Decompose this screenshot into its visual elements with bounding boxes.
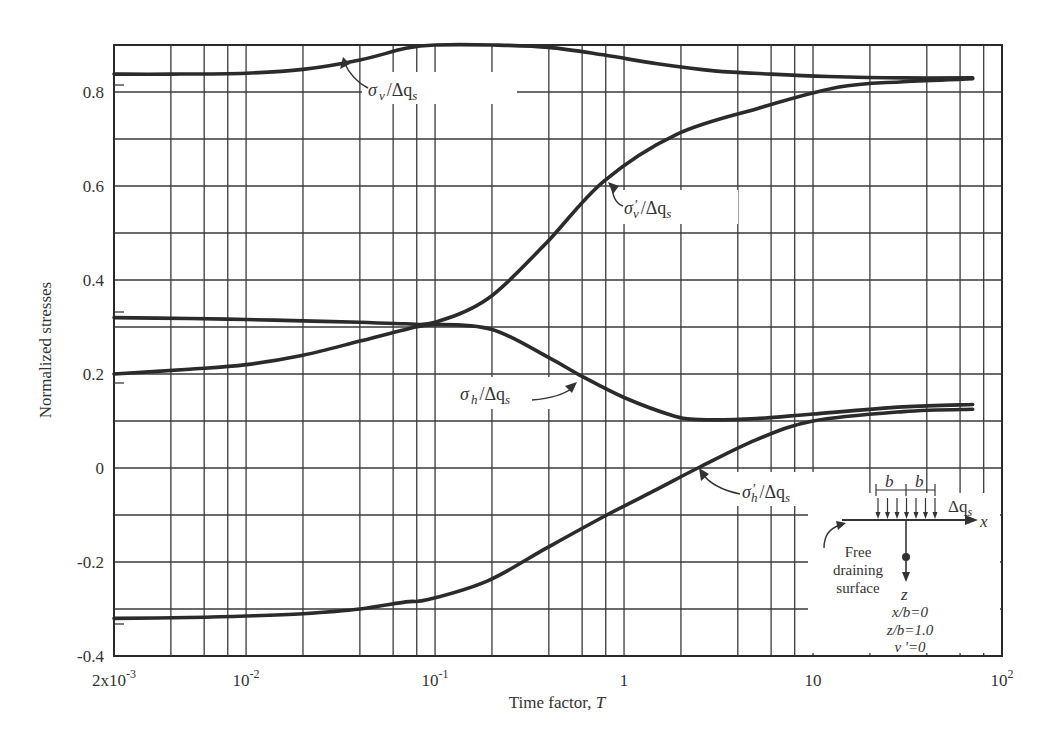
inset-b-right: b — [915, 472, 924, 491]
annotation-sigma-prime-v: σ'v/Δqs — [624, 198, 671, 221]
x-tick-label: 1 — [620, 671, 629, 690]
y-tick-label: 0 — [96, 459, 105, 478]
free-surface-line1: Free — [845, 544, 872, 560]
param-z-b: z/b=1.0 — [886, 622, 934, 638]
left-edge-marks — [114, 85, 124, 624]
y-tick-label: 0.4 — [83, 271, 105, 290]
param-x-b: x/b=0 — [891, 604, 928, 620]
point-marker — [902, 553, 910, 561]
x-tick-labels: 2x10-310-210-1110102 — [92, 667, 1014, 690]
y-tick-labels: 0.80.60.40.20-0.2-0.4 — [77, 83, 104, 666]
free-surface-line3: surface — [836, 580, 880, 596]
inset-z-label: z — [900, 585, 908, 604]
annotation-arrows — [340, 57, 740, 494]
x-tick-label: 102 — [991, 667, 1014, 690]
x-tick-label: 10 — [805, 671, 822, 690]
y-tick-label: -0.2 — [77, 553, 104, 572]
x-tick-label: 10-2 — [233, 667, 260, 690]
series-curve-0 — [114, 45, 973, 78]
annotation-sigma-prime-h: σ'h/Δqs — [742, 482, 790, 505]
annotation-sigma-v: σv/Δqs — [368, 80, 417, 103]
chart: 0.80.60.40.20-0.2-0.4 2x10-310-210-11101… — [0, 0, 1061, 753]
y-axis-title: Normalized stresses — [36, 282, 55, 418]
arrowhead-icon — [608, 182, 619, 194]
free-surface-line2: draining — [833, 562, 883, 578]
param-nu: ν '=0 — [894, 639, 926, 655]
x-tick-label: 10-1 — [422, 667, 449, 690]
inset-b-left: b — [885, 472, 894, 491]
y-tick-label: 0.8 — [83, 83, 104, 102]
arrowhead-icon — [340, 57, 350, 69]
series-annotations: σv/Δqs σ'v/Δqs σh/Δqs σ'h/Δqs — [368, 80, 790, 505]
annotation-sigma-h: σh/Δqs — [460, 384, 510, 407]
inset-x-label: x — [979, 512, 988, 531]
x-tick-label: 2x10-3 — [92, 667, 136, 690]
y-tick-label: -0.4 — [77, 647, 104, 666]
x-axis-title: Time factor, T — [509, 693, 607, 712]
y-tick-label: 0.6 — [83, 177, 104, 196]
series-curve-1 — [114, 79, 973, 325]
y-tick-label: 0.2 — [83, 365, 104, 384]
